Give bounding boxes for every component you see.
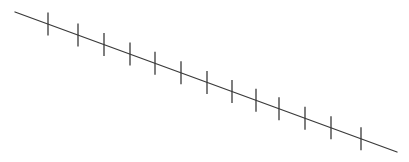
main-line bbox=[15, 12, 397, 152]
diagram-canvas bbox=[0, 0, 409, 162]
